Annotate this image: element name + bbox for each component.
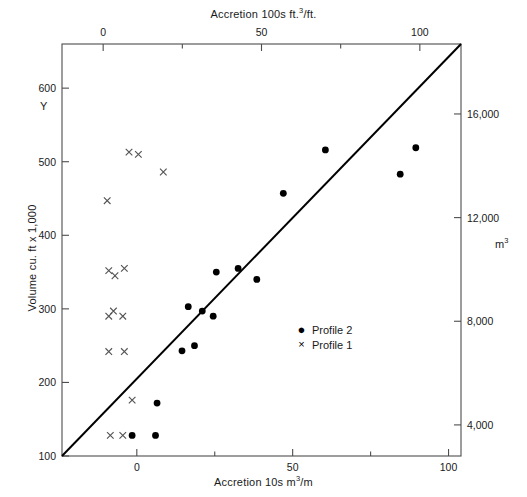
data-point-dot xyxy=(253,276,260,283)
tick-label-right-8000: 8,000 xyxy=(467,315,493,327)
data-point-cross xyxy=(119,432,126,439)
data-point-dot xyxy=(154,400,161,407)
data-point-cross xyxy=(104,197,111,204)
data-point-dot xyxy=(152,432,159,439)
m3-symbol-label: m3 xyxy=(495,238,508,250)
cross-marker-icon: × xyxy=(295,339,308,350)
data-point-cross xyxy=(129,397,136,404)
tick-label-top-0: 0 xyxy=(100,26,106,38)
data-point-cross xyxy=(105,313,112,320)
data-point-cross xyxy=(160,169,167,176)
data-point-dot xyxy=(412,144,419,151)
data-point-dot xyxy=(322,147,329,154)
data-point-cross xyxy=(112,272,119,279)
y-symbol-label: Y xyxy=(40,100,47,112)
legend-item: ●Profile 2 xyxy=(295,322,352,337)
tick-label-left-300: 300 xyxy=(38,303,56,315)
tick-label-left-100: 100 xyxy=(38,450,56,462)
data-point-cross xyxy=(121,265,128,272)
tick-label-top-100: 100 xyxy=(411,26,429,38)
legend-item-label: Profile 2 xyxy=(308,324,352,336)
data-point-dot xyxy=(213,269,220,276)
tick-label-right-4000: 4,000 xyxy=(467,419,493,431)
data-point-dot xyxy=(185,303,192,310)
data-point-dot xyxy=(129,432,136,439)
data-point-cross xyxy=(107,432,114,439)
data-point-cross xyxy=(105,348,112,355)
data-point-cross xyxy=(105,267,112,274)
reference-line-path xyxy=(62,44,461,456)
data-point-dot xyxy=(235,265,242,272)
tick-label-left-400: 400 xyxy=(38,229,56,241)
data-point-cross xyxy=(121,348,128,355)
tick-label-bottom-100: 100 xyxy=(440,461,458,473)
reference-line xyxy=(62,44,461,456)
series-profile-1 xyxy=(104,149,167,439)
legend-item-label: Profile 1 xyxy=(308,339,352,351)
scatter-plot-figure: Accretion 100s ft.3/ft. Accretion 10s m3… xyxy=(0,0,527,497)
data-point-dot xyxy=(397,171,404,178)
tick-label-left-200: 200 xyxy=(38,376,56,388)
dot-marker-icon: ● xyxy=(295,323,308,336)
tick-label-right-12000: 12,000 xyxy=(467,212,499,224)
bottom-axis-title: Accretion 10s m3/m xyxy=(0,476,527,488)
tick-label-bottom-50: 50 xyxy=(287,461,299,473)
left-axis-title: Volume cu. ft x 1,000 xyxy=(26,168,38,348)
legend-item: ×Profile 1 xyxy=(295,337,352,352)
tick-label-top-50: 50 xyxy=(256,26,268,38)
tick-label-left-600: 600 xyxy=(38,82,56,94)
data-point-dot xyxy=(191,342,198,349)
series-profile-2 xyxy=(129,144,419,438)
data-point-cross xyxy=(126,149,133,156)
plot-canvas xyxy=(0,0,527,497)
data-point-dot xyxy=(210,313,217,320)
data-point-cross xyxy=(135,151,142,158)
data-point-dot xyxy=(179,347,186,354)
legend: ●Profile 2×Profile 1 xyxy=(295,322,352,352)
data-point-dot xyxy=(199,308,206,315)
tick-label-left-500: 500 xyxy=(38,156,56,168)
data-point-dot xyxy=(280,190,287,197)
data-points xyxy=(104,144,419,438)
tick-label-right-16000: 16,000 xyxy=(467,108,499,120)
tick-label-bottom-0: 0 xyxy=(134,461,140,473)
data-point-cross xyxy=(119,313,126,320)
top-axis-title: Accretion 100s ft.3/ft. xyxy=(0,8,527,20)
